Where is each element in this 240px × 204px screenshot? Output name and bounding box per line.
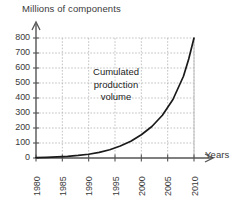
y-tick-label: 700 xyxy=(4,47,30,57)
x-tick-label: 2010 xyxy=(190,176,200,196)
x-tick-label: 1990 xyxy=(84,176,94,196)
x-tick-label: 2000 xyxy=(137,176,147,196)
x-tick-label: 1995 xyxy=(111,176,121,196)
y-tick-label: 800 xyxy=(4,32,30,42)
series-annotation-label: Cumulated production volume xyxy=(78,66,154,104)
y-tick-label: 200 xyxy=(4,122,30,132)
y-tick-label: 0 xyxy=(4,152,30,162)
y-tick-label: 300 xyxy=(4,107,30,117)
x-axis-title: Years xyxy=(205,149,229,160)
y-axis-title: Millions of components xyxy=(22,3,121,14)
y-tick-label: 100 xyxy=(4,137,30,147)
y-tick-label: 400 xyxy=(4,92,30,102)
chart-figure: Millions of components Years 01002003004… xyxy=(0,0,240,204)
x-tick-label: 1980 xyxy=(32,176,42,196)
x-tick-label: 2005 xyxy=(163,176,173,196)
y-tick-label: 600 xyxy=(4,62,30,72)
y-tick-label: 500 xyxy=(4,77,30,87)
x-tick-label: 1985 xyxy=(58,176,68,196)
